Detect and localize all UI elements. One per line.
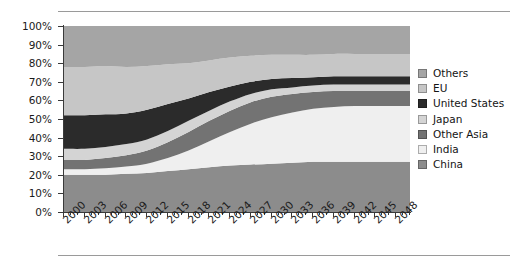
y-tick-mark [58,45,63,46]
legend-label: India [433,144,459,155]
legend-label: United States [433,98,504,109]
y-tick-label: 70% [29,77,52,88]
y-tick-mark [58,193,63,194]
y-tick-label: 100% [22,21,52,32]
legend-swatch-japan [418,115,427,124]
legend-item[interactable]: Others [418,66,526,81]
y-tick-label: 20% [29,170,52,181]
y-axis-line [63,25,64,213]
legend-swatch-other-asia [418,130,427,139]
stacked-area-plot [64,26,410,212]
y-tick-mark [58,100,63,101]
y-tick-mark [58,26,63,27]
y-tick-mark [58,175,63,176]
legend-label: China [433,159,463,170]
chart-legend: OthersEUUnited StatesJapanOther AsiaIndi… [418,66,526,172]
legend-item[interactable]: India [418,142,526,157]
legend-label: Japan [433,114,462,125]
x-axis-labels: 2000200320062009201220152018202120242027… [0,216,420,262]
y-tick-label: 10% [29,188,52,199]
y-tick-mark [58,138,63,139]
legend-item[interactable]: EU [418,81,526,96]
y-tick-mark [58,156,63,157]
legend-item[interactable]: United States [418,96,526,111]
legend-swatch-eu [418,84,427,93]
legend-swatch-united-states [418,99,427,108]
area-series-svg [64,26,410,212]
y-tick-mark [58,63,63,64]
top-divider-rule [58,11,510,12]
legend-label: Others [433,68,468,79]
legend-swatch-china [418,160,427,169]
chart-page: 0%10%20%30%40%50%60%70%80%90%100% 200020… [0,0,528,265]
legend-item[interactable]: Japan [418,112,526,127]
legend-item[interactable]: Other Asia [418,127,526,142]
y-tick-label: 30% [29,151,52,162]
y-tick-label: 80% [29,58,52,69]
legend-label: Other Asia [433,129,488,140]
y-tick-mark [58,82,63,83]
y-tick-mark [58,119,63,120]
legend-swatch-others [418,69,427,78]
y-tick-label: 90% [29,40,52,51]
legend-swatch-india [418,145,427,154]
y-tick-label: 50% [29,114,52,125]
legend-item[interactable]: China [418,157,526,172]
legend-label: EU [433,83,447,94]
y-tick-label: 60% [29,95,52,106]
y-tick-label: 40% [29,133,52,144]
